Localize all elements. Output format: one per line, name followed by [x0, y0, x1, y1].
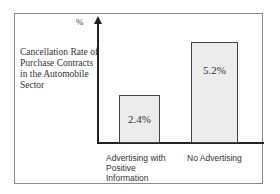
- y-axis: [97, 22, 99, 144]
- category-line: Information: [106, 173, 166, 183]
- category-line: Positive: [106, 163, 166, 173]
- bar-advertising-positive: 2.4%: [119, 95, 160, 143]
- bar-no-advertising: 5.2%: [191, 42, 238, 143]
- category-line: Advertising with: [106, 153, 166, 163]
- y-axis-unit: %: [76, 17, 84, 27]
- bar-value-label: 2.4%: [120, 113, 159, 125]
- bar-value-label: 5.2%: [192, 64, 237, 76]
- x-category-label-1: Advertising with Positive Information: [106, 153, 166, 183]
- y-axis-label: Cancellation Rate of Purchase Contracts …: [20, 47, 100, 91]
- x-category-label-2: No Advertising: [187, 153, 242, 163]
